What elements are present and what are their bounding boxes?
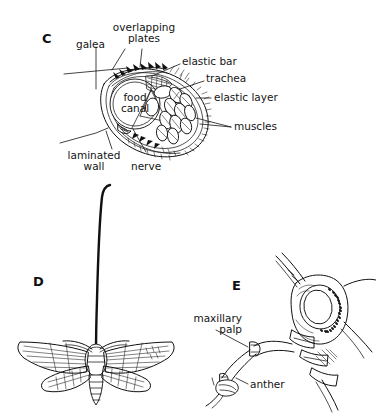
- label-maxillary-palp-line2: palp: [172, 324, 242, 336]
- panel-e-drawing: [0, 0, 376, 415]
- insect-head: [276, 253, 376, 358]
- label-anther: anther: [250, 379, 285, 391]
- scientific-figure: C: [0, 0, 376, 415]
- insect-mouthparts: [290, 330, 338, 412]
- panel-e-leader-lines: [216, 330, 248, 384]
- anther: [206, 378, 238, 408]
